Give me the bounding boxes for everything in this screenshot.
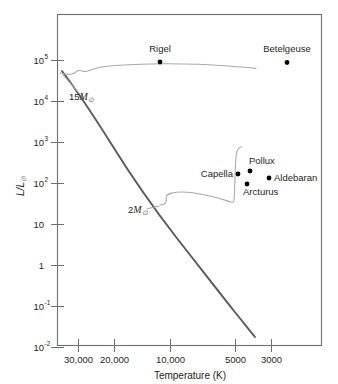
y-tick-exponent-0: 5 xyxy=(45,53,49,60)
x-tick-label-0: 30,000 xyxy=(64,354,93,365)
y-tick-exponent-7: -2 xyxy=(45,340,51,347)
y-tick-exponent-1: 4 xyxy=(45,94,49,101)
y-tick-label-7: 10 xyxy=(33,342,44,353)
y-tick-label-4: 10 xyxy=(33,219,44,230)
track-2msun-sun: ⊙ xyxy=(142,209,148,216)
y-tick-label-0: 10 xyxy=(33,55,44,66)
star-dot-aldebaran xyxy=(267,176,272,181)
hr-diagram-figure: 10 5 10 4 10 3 10 2 10 1 10 -1 10 -2 L/L… xyxy=(0,0,338,384)
star-label-capella: Capella xyxy=(201,168,234,179)
track-15msun-number: 15 xyxy=(69,91,80,102)
evolutionary-track-15msun xyxy=(60,64,256,75)
track-15msun-label: 15M⊙ xyxy=(69,91,94,103)
star-label-betelgeuse: Betelgeuse xyxy=(263,43,311,54)
star-label-aldebaran: Aldebaran xyxy=(274,172,317,183)
x-tick-label-3: 5000 xyxy=(225,354,246,365)
y-tick-label-5: 1 xyxy=(39,260,44,271)
y-axis-title: L/L⊙ xyxy=(15,176,27,196)
svg-text:L/L⊙: L/L⊙ xyxy=(15,176,27,196)
star-dot-capella xyxy=(236,172,241,177)
main-sequence-curve xyxy=(62,71,255,337)
y-axis-title-sun: ⊙ xyxy=(20,176,27,182)
x-tick-label-2: 10,000 xyxy=(156,354,185,365)
y-tick-label-6: 10 xyxy=(33,301,44,312)
star-dot-betelgeuse xyxy=(285,60,290,65)
y-tick-exponent-6: -1 xyxy=(45,299,51,306)
y-tick-label-1: 10 xyxy=(33,96,44,107)
y-tick-label-2: 10 xyxy=(33,137,44,148)
x-tick-label-4: 3000 xyxy=(261,354,282,365)
star-dot-rigel xyxy=(158,60,163,65)
x-axis-tick-labels: 30,000 20,000 10,000 5000 3000 xyxy=(64,354,282,365)
x-tick-label-1: 20,000 xyxy=(100,354,129,365)
hr-diagram-chart: 10 5 10 4 10 3 10 2 10 1 10 -1 10 -2 L/L… xyxy=(0,0,338,384)
y-axis-tick-labels: 10 5 10 4 10 3 10 2 10 1 10 -1 10 -2 xyxy=(33,53,50,354)
y-tick-exponent-3: 2 xyxy=(45,176,49,183)
star-dot-pollux xyxy=(248,169,253,174)
track-15msun-sun: ⊙ xyxy=(88,96,94,103)
star-label-pollux: Pollux xyxy=(249,155,275,166)
y-tick-exponent-2: 3 xyxy=(45,135,49,142)
track-2msun-label: 2M⊙ xyxy=(128,204,148,216)
star-label-arcturus: Arcturus xyxy=(243,186,279,197)
star-label-rigel: Rigel xyxy=(149,43,171,54)
y-tick-label-3: 10 xyxy=(33,178,44,189)
x-axis-title: Temperature (K) xyxy=(154,370,226,381)
